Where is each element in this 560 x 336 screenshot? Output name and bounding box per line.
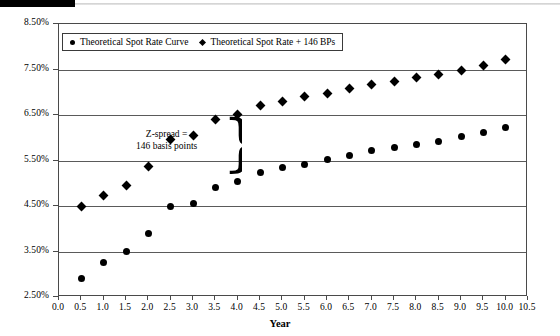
data-point-series-2 — [99, 190, 109, 200]
circle-marker-icon — [70, 40, 75, 45]
x-tick-label-2.0: 2.0 — [141, 302, 153, 312]
data-point-series-2 — [210, 115, 220, 125]
x-tick-label-1.5: 1.5 — [119, 302, 131, 312]
x-tick-mark — [348, 296, 349, 300]
x-tick-mark — [170, 296, 171, 300]
data-point-series-1 — [346, 152, 353, 159]
data-point-series-2 — [255, 101, 265, 111]
x-tick-mark — [371, 296, 372, 300]
x-tick-mark — [192, 296, 193, 300]
x-tick-mark — [482, 296, 483, 300]
data-point-series-2 — [143, 162, 153, 172]
y-tick-label-7.50%: 7.50% — [0, 63, 49, 73]
data-point-series-1 — [301, 161, 308, 168]
x-tick-label-3.0: 3.0 — [186, 302, 198, 312]
chart-legend: Theoretical Spot Rate Curve Theoretical … — [62, 33, 343, 51]
data-point-series-2 — [434, 70, 444, 80]
y-tick-mark — [53, 23, 58, 24]
y-tick-mark — [53, 251, 58, 252]
x-tick-mark — [259, 296, 260, 300]
data-point-series-1 — [100, 259, 107, 266]
chart-figure: 2.50%3.50%4.50%5.50%6.50%7.50%8.50% 0.00… — [0, 0, 560, 336]
x-tick-mark — [393, 296, 394, 300]
data-point-series-1 — [458, 133, 465, 140]
x-tick-label-2.5: 2.5 — [164, 302, 176, 312]
x-tick-label-5.0: 5.0 — [275, 302, 287, 312]
data-point-series-2 — [344, 84, 354, 94]
x-tick-mark — [80, 296, 81, 300]
x-tick-mark — [237, 296, 238, 300]
plot-area — [58, 23, 527, 296]
x-tick-label-10.5: 10.5 — [518, 302, 535, 312]
data-point-series-1 — [502, 124, 509, 131]
data-point-series-1 — [279, 164, 286, 171]
x-tick-mark — [326, 296, 327, 300]
z-spread-line-2: 146 basis points — [136, 140, 197, 152]
x-tick-mark — [527, 296, 528, 300]
x-tick-label-4.0: 4.0 — [231, 302, 243, 312]
x-tick-mark — [103, 296, 104, 300]
y-tick-mark — [53, 205, 58, 206]
gridline-4.50% — [59, 206, 526, 207]
legend-label-spot-rate-plus-146bps: Theoretical Spot Rate + 146 BPs — [210, 37, 335, 47]
x-tick-label-4.5: 4.5 — [253, 302, 265, 312]
z-spread-line-1: Z-spread = — [136, 128, 197, 140]
y-tick-mark — [53, 114, 58, 115]
x-tick-label-3.5: 3.5 — [208, 302, 220, 312]
legend-entry-spot-rate-plus-146bps: Theoretical Spot Rate + 146 BPs — [200, 37, 335, 47]
data-point-series-1 — [391, 144, 398, 151]
x-tick-mark — [147, 296, 148, 300]
x-tick-label-9.5: 9.5 — [476, 302, 488, 312]
data-point-series-2 — [389, 76, 399, 86]
data-point-series-2 — [456, 65, 466, 75]
y-tick-label-3.50%: 3.50% — [0, 245, 49, 255]
diamond-marker-icon — [199, 38, 206, 45]
x-tick-mark — [438, 296, 439, 300]
y-tick-label-8.50%: 8.50% — [0, 17, 49, 27]
x-tick-label-7.0: 7.0 — [365, 302, 377, 312]
x-tick-mark — [281, 296, 282, 300]
data-point-series-1 — [324, 156, 331, 163]
y-tick-mark — [53, 69, 58, 70]
data-point-series-2 — [501, 55, 511, 65]
data-point-series-2 — [121, 180, 131, 190]
data-point-series-2 — [322, 88, 332, 98]
y-tick-label-2.50%: 2.50% — [0, 290, 49, 300]
x-axis-title: Year — [0, 318, 560, 329]
data-point-series-2 — [277, 96, 287, 106]
x-tick-mark — [125, 296, 126, 300]
gridline-5.50% — [59, 161, 526, 162]
data-point-series-1 — [257, 169, 264, 176]
x-tick-label-1.0: 1.0 — [97, 302, 109, 312]
y-tick-mark — [53, 160, 58, 161]
data-point-series-1 — [435, 138, 442, 145]
legend-entry-spot-rate-curve: Theoretical Spot Rate Curve — [70, 37, 188, 47]
z-spread-annotation: Z-spread = 146 basis points — [136, 128, 197, 152]
x-tick-label-7.5: 7.5 — [387, 302, 399, 312]
x-tick-mark — [214, 296, 215, 300]
data-point-series-1 — [212, 184, 219, 191]
data-point-series-1 — [190, 200, 197, 207]
x-tick-label-5.5: 5.5 — [298, 302, 310, 312]
data-point-series-1 — [480, 129, 487, 136]
data-point-series-1 — [123, 248, 130, 255]
x-tick-label-0.0: 0.0 — [52, 302, 64, 312]
x-tick-label-6.0: 6.0 — [320, 302, 332, 312]
data-point-series-1 — [413, 141, 420, 148]
data-point-series-2 — [76, 202, 86, 212]
x-tick-mark — [415, 296, 416, 300]
x-tick-label-6.5: 6.5 — [342, 302, 354, 312]
x-tick-label-0.5: 0.5 — [74, 302, 86, 312]
legend-label-spot-rate-curve: Theoretical Spot Rate Curve — [80, 37, 188, 47]
y-tick-label-6.50%: 6.50% — [0, 108, 49, 118]
y-tick-label-4.50%: 4.50% — [0, 199, 49, 209]
header-rule — [75, 3, 560, 5]
y-tick-label-5.50%: 5.50% — [0, 154, 49, 164]
data-point-series-2 — [367, 79, 377, 89]
data-point-series-1 — [145, 230, 152, 237]
data-point-series-1 — [368, 147, 375, 154]
x-tick-label-10.0: 10.0 — [496, 302, 513, 312]
x-tick-label-8.5: 8.5 — [432, 302, 444, 312]
x-tick-label-9.0: 9.0 — [454, 302, 466, 312]
x-tick-mark — [460, 296, 461, 300]
